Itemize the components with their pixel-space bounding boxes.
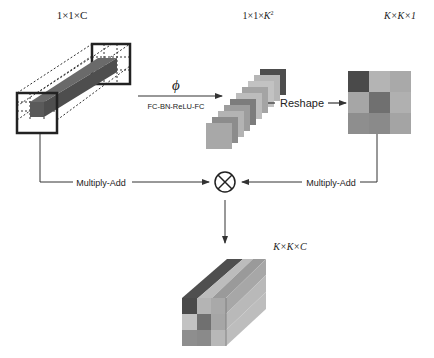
output-shape-label: K×K×C: [272, 241, 307, 252]
transform-label: FC-BN-ReLU-FC: [147, 102, 205, 111]
multiply-operator-icon: [215, 172, 235, 192]
multiply-add-right-label: Multiply-Add: [306, 178, 356, 188]
output-kernel-tensor: [182, 259, 266, 346]
reshape-label: Reshape: [280, 97, 324, 109]
multiply-add-left-label: Multiply-Add: [76, 178, 126, 188]
phi-symbol: ϕ: [172, 77, 180, 93]
input-feature-tensor: [17, 44, 130, 133]
kernel-vector-shape-label: 1×1×K2: [243, 10, 274, 21]
kernel-map-shape-label: K×K×1: [383, 10, 416, 21]
kernel-vector-stack: [206, 69, 286, 149]
input-shape-label: 1×1×C: [57, 9, 88, 21]
kernel-generation-diagram: 1×1×C ϕ FC-BN-ReLU-FC 1×1×K2 Reshape K×K…: [0, 0, 434, 358]
kernel-map-grid: [348, 71, 411, 134]
